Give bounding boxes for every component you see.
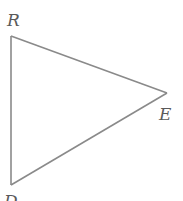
vertex-label-r: R — [6, 10, 20, 30]
triangle-diagram: R E D — [0, 0, 183, 201]
vertex-label-e: E — [158, 104, 172, 124]
edge-r-e — [11, 36, 167, 93]
edge-e-d — [11, 93, 167, 185]
vertex-label-d: D — [3, 191, 18, 201]
